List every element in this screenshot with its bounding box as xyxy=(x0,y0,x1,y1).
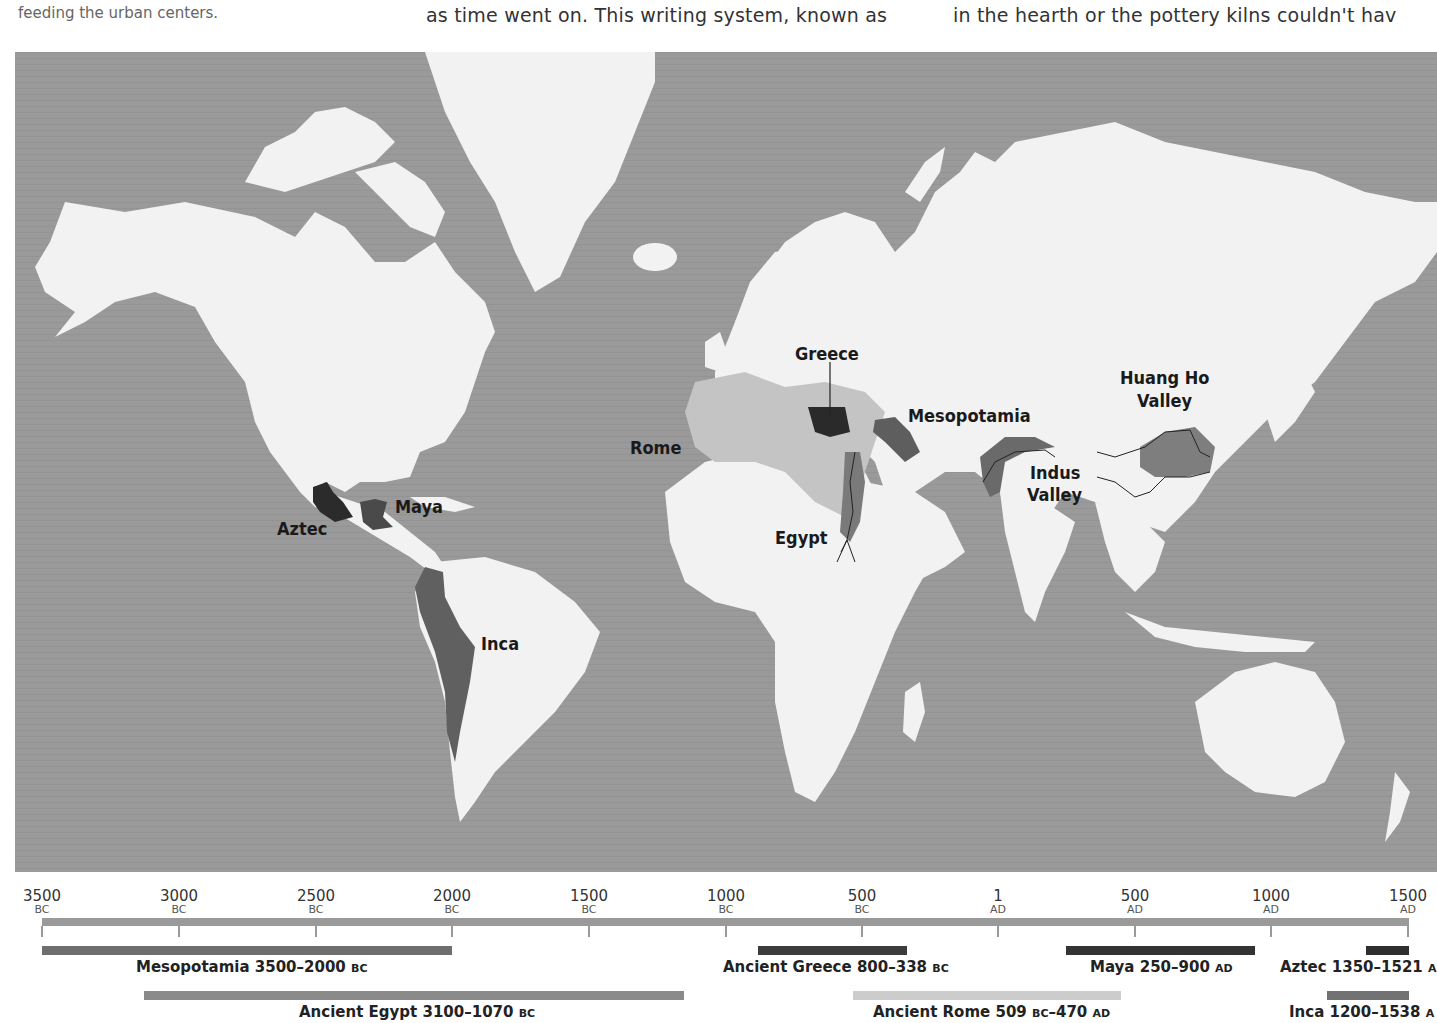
label-aztec-dates: Aztec 1350–1521 A xyxy=(1280,958,1437,976)
tick-label: 500BC xyxy=(832,889,892,916)
bar-maya xyxy=(1066,946,1255,955)
label-maya: Maya xyxy=(395,496,443,518)
bar-ancient-rome xyxy=(853,991,1121,1000)
label-huangho-valley: Valley xyxy=(1137,390,1192,412)
tick-label: 1500BC xyxy=(559,889,619,916)
timeline-axis xyxy=(42,918,1409,926)
label-greece: Greece xyxy=(795,343,859,365)
tick-mark xyxy=(997,926,999,937)
body-text-column-3: in the hearth or the pottery kilns could… xyxy=(953,4,1396,26)
label-huangho: Huang Ho xyxy=(1120,367,1209,389)
bar-aztec xyxy=(1366,946,1409,955)
label-inca: Inca xyxy=(481,633,519,655)
tick-label: 1AD xyxy=(968,889,1028,916)
label-greece-dates: Ancient Greece 800–338 BC xyxy=(723,958,949,976)
label-egypt: Egypt xyxy=(775,527,828,549)
tick-mark xyxy=(725,926,727,937)
label-egypt-dates: Ancient Egypt 3100–1070 BC xyxy=(299,1003,535,1021)
tick-mark xyxy=(1270,926,1272,937)
label-indus-valley: Valley xyxy=(1027,484,1082,506)
tick-mark xyxy=(861,926,863,937)
tick-mark xyxy=(451,926,453,937)
tick-mark xyxy=(1134,926,1136,937)
tick-label: 500AD xyxy=(1105,889,1165,916)
label-indus: Indus xyxy=(1030,462,1080,484)
label-rome-dates: Ancient Rome 509 BC–470 AD xyxy=(873,1003,1110,1021)
tick-mark xyxy=(588,926,590,937)
tick-label: 1000BC xyxy=(696,889,756,916)
tick-label: 1500AD xyxy=(1378,889,1437,916)
tick-label: 3500BC xyxy=(12,889,72,916)
label-aztec: Aztec xyxy=(277,518,327,540)
tick-label: 2000BC xyxy=(422,889,482,916)
label-maya-dates: Maya 250–900 AD xyxy=(1090,958,1233,976)
bar-mesopotamia xyxy=(42,946,452,955)
tick-label: 2500BC xyxy=(286,889,346,916)
label-rome: Rome xyxy=(630,437,681,459)
civilizations-timeline: 3500BC 3000BC 2500BC 2000BC 1500BC 1000B… xyxy=(0,872,1437,1023)
label-mesopotamia-dates: Mesopotamia 3500–2000 BC xyxy=(136,958,367,976)
tick-mark xyxy=(315,926,317,937)
label-mesopotamia: Mesopotamia xyxy=(908,405,1031,427)
tick-label: 3000BC xyxy=(149,889,209,916)
world-map: Greece Mesopotamia Rome Egypt Indus Vall… xyxy=(15,52,1437,872)
tick-mark xyxy=(178,926,180,937)
tick-mark xyxy=(1407,926,1409,937)
bar-inca xyxy=(1327,991,1409,1000)
land-iceland xyxy=(633,243,677,271)
tick-mark xyxy=(41,926,43,937)
bar-ancient-egypt xyxy=(144,991,684,1000)
label-inca-dates: Inca 1200–1538 A xyxy=(1289,1003,1434,1021)
tick-label: 1000AD xyxy=(1241,889,1301,916)
body-text-column-1: feeding the urban centers. xyxy=(18,4,218,22)
bar-ancient-greece xyxy=(758,946,907,955)
body-text-column-2: as time went on. This writing system, kn… xyxy=(426,4,887,26)
